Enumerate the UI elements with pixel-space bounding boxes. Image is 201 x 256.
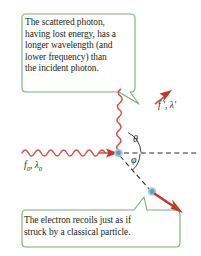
electron-recoil-callout-text: The electron recoils just as if struck b… (24, 215, 178, 238)
scattering-vertex-electron (114, 149, 123, 158)
recoil-electron-core (150, 189, 155, 194)
vertex-electron-core (116, 151, 121, 156)
compton-scattering-figure: The scattered photon, having lost energy… (0, 0, 201, 256)
scattered-photon-callout-text: The scattered photon, having lost energy… (25, 17, 133, 75)
incident-photon-wave (22, 149, 118, 158)
incident-photon-waveform (22, 150, 105, 156)
scattered-photon-waveform (117, 89, 123, 151)
phi-angle-label: φ (131, 154, 137, 165)
scattered-photon-wave (117, 89, 172, 151)
incident-photon-label: f0, λ0 (24, 160, 42, 172)
incident-lambda-subscript: 0 (39, 165, 42, 172)
incident-lambda: , λ (30, 160, 39, 170)
scattered-photon-label: f ′, λ′ (158, 100, 176, 110)
theta-angle-label: θ (133, 133, 138, 144)
